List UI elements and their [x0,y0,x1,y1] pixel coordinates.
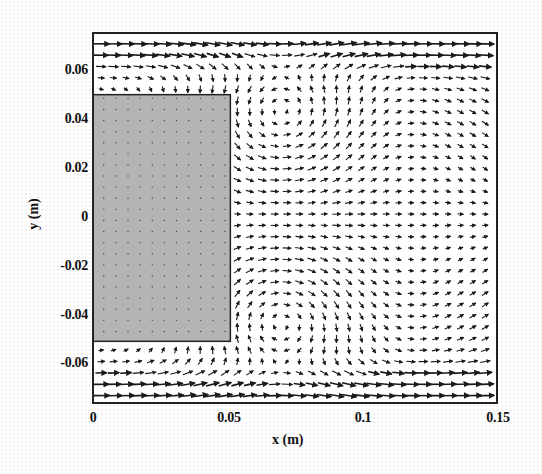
vector-field-figure: 0.06 0.04 0.02 0 -0.02 -0.04 -0.06 0 0.0… [0,0,542,474]
y-tick-label: 0.06 [36,62,88,78]
velocity-arrow [332,225,340,226]
velocity-arrow [262,359,263,365]
y-tick-label: 0.02 [36,160,88,176]
velocity-arrow [466,372,479,373]
velocity-arrow [477,384,494,385]
y-tick-label: 0 [36,209,88,225]
velocity-arrow [420,338,426,339]
velocity-arrow [405,373,417,374]
velocity-arrow [408,327,414,328]
velocity-arrow [408,112,414,113]
velocity-arrow [345,225,353,226]
velocity-arrow [457,225,463,226]
velocity-arrow [110,361,117,362]
velocity-arrow [270,259,279,260]
velocity-arrow [482,214,488,215]
velocity-arrow [408,168,413,169]
velocity-arrow [270,180,279,181]
velocity-arrow [408,100,414,101]
velocity-arrow [311,75,312,81]
velocity-arrow [268,395,281,396]
velocity-arrow [110,78,117,79]
y-tick-label: -0.04 [36,307,88,323]
velocity-arrow [457,214,463,215]
velocity-arrow [477,55,493,56]
velocity-arrow [383,202,389,203]
velocity-arrow [445,202,451,203]
velocity-arrow [431,361,440,362]
velocity-arrow [269,384,280,385]
velocity-arrow [442,66,454,67]
velocity-arrow [407,78,415,79]
velocity-arrow [441,373,454,374]
velocity-arrow [470,214,476,215]
velocity-arrow [405,66,416,67]
velocity-arrow [225,74,226,82]
x-tick-label: 0 [68,410,118,426]
velocity-arrow [324,97,325,105]
velocity-arrow [283,168,292,169]
velocity-arrow [144,55,158,56]
x-axis-label: x (m) [272,432,304,448]
velocity-arrow [396,236,402,237]
velocity-arrow [268,44,281,45]
velocity-arrow [283,259,292,260]
velocity-arrow [249,324,250,331]
velocity-arrow [433,236,438,237]
x-tick-label: 0.05 [204,410,254,426]
velocity-arrow [246,225,253,226]
velocity-arrow [270,248,278,249]
velocity-arrow [321,225,328,226]
velocity-arrow [282,55,292,56]
velocity-arrow [406,361,415,362]
velocity-arrow [408,180,413,181]
velocity-arrow [420,270,425,271]
velocity-arrow [470,225,476,226]
velocity-arrow [121,66,131,67]
velocity-arrow [308,225,315,226]
velocity-arrow [120,373,131,374]
obstacle-rectangle [93,95,230,342]
y-axis-label: y (m) [26,194,42,234]
x-tick-label: 0.1 [338,410,388,426]
velocity-arrow [421,168,426,169]
y-tick-label: -0.02 [36,258,88,274]
velocity-arrow [281,384,292,385]
velocity-arrow [408,338,414,339]
velocity-arrow [237,323,238,331]
velocity-arrow [283,270,292,271]
velocity-arrow [454,372,467,373]
y-tick-label: 0.04 [36,111,88,127]
velocity-arrow [131,55,145,56]
velocity-arrow [454,66,466,67]
velocity-arrow [421,259,426,260]
y-tick-label: -0.06 [36,355,88,371]
velocity-arrow [212,346,213,354]
velocity-arrow [482,225,488,226]
velocity-arrow [296,202,304,203]
velocity-arrow [408,259,413,260]
x-tick-label: 0.15 [473,410,523,426]
velocity-arrow [476,44,494,45]
